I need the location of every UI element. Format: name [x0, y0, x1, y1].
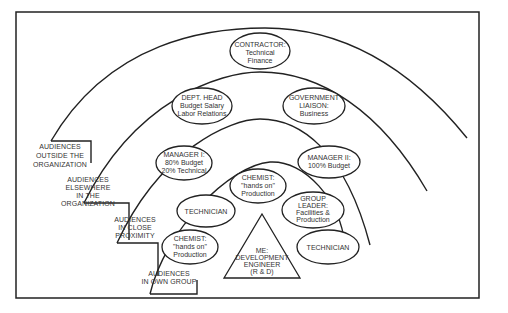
node-me-development-engineer: ME:DEVELOPMENTENGINEER(R & D): [224, 214, 300, 278]
node-manager-1: MANAGER I:80% Budget20% Technical: [156, 146, 212, 180]
svg-text:CHEMIST:"hands on"Production: CHEMIST:"hands on"Production: [241, 174, 275, 197]
svg-text:MANAGER I:80% Budget20% Techni: MANAGER I:80% Budget20% Technical: [161, 151, 206, 174]
svg-text:GROUPLEADER:Facilities &Produc: GROUPLEADER:Facilities &Production: [296, 195, 330, 223]
node-manager-2: MANAGER II:100% Budget: [298, 146, 360, 178]
label-outside: AUDIENCESOUTSIDE THEORGANIZATION: [33, 143, 87, 168]
node-technician-right: TECHNICIAN: [297, 230, 359, 264]
label-close: AUDIENCESIN CLOSEPROXIMITY: [114, 216, 156, 239]
svg-text:MANAGER II:100% Budget: MANAGER II:100% Budget: [307, 154, 350, 170]
diagram-frame: [16, 12, 239, 149]
audience-diagram: AUDIENCESOUTSIDE THEORGANIZATION AUDIENC…: [0, 0, 508, 313]
node-dept-head: DEPT. HEADBudget SalaryLabor Relations: [172, 88, 232, 124]
node-group-leader: GROUPLEADER:Facilities &Production: [282, 192, 344, 228]
svg-text:DEPT. HEADBudget SalaryLabor R: DEPT. HEADBudget SalaryLabor Relations: [177, 94, 227, 117]
node-chemist-bottom: CHEMIST:"hands on"Production: [162, 230, 218, 264]
label-own: AUDIENCESIN OWN GROUP: [142, 270, 197, 285]
node-government-liaison: GOVERNMENTLIAISON:Business: [283, 88, 345, 124]
node-technician-left: TECHNICIAN: [177, 195, 235, 227]
label-elsewhere: AUDIENCESELSEWHEREIN THEORGANIZATION: [61, 176, 115, 207]
svg-text:CHEMIST:"hands on"Production: CHEMIST:"hands on"Production: [173, 235, 207, 258]
node-contractor: CONTRACTOR:TechnicalFinance: [230, 33, 290, 69]
svg-text:TECHNICIAN: TECHNICIAN: [307, 244, 350, 251]
svg-text:TECHNICIAN: TECHNICIAN: [185, 208, 228, 215]
node-chemist-top: CHEMIST:"hands on"Production: [230, 169, 286, 203]
